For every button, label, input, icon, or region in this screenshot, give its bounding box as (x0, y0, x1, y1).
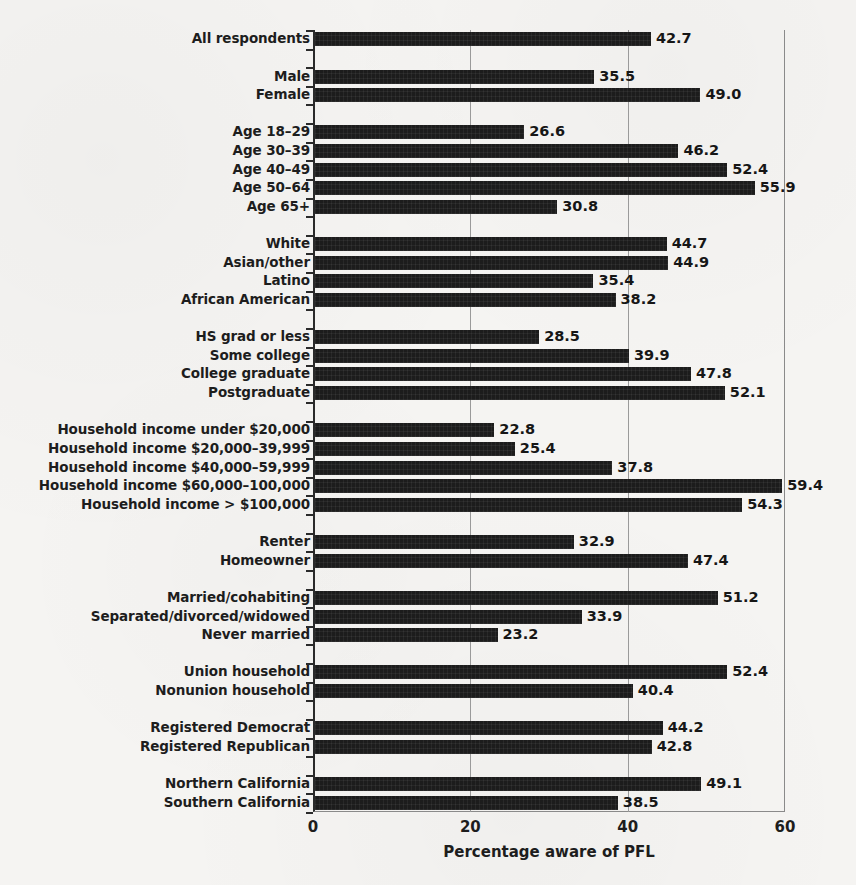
y-axis-tick (306, 700, 313, 702)
bar-value-label: 38.5 (623, 794, 659, 810)
x-tick-label-60: 60 (775, 818, 796, 836)
bar-value-label: 33.9 (587, 608, 623, 624)
bar (315, 293, 616, 307)
bar-value-label: 22.8 (499, 421, 535, 437)
bar (315, 665, 727, 679)
category-label: Postgraduate (208, 384, 310, 400)
category-label: White (266, 235, 310, 251)
bar (315, 88, 700, 102)
x-axis-title-text: Percentage aware of PFL (443, 843, 654, 861)
y-axis-tick (306, 570, 313, 572)
category-label: Registered Democrat (150, 719, 310, 735)
bar (315, 461, 612, 475)
bar (315, 163, 727, 177)
bar (315, 442, 515, 456)
category-label: Registered Republican (140, 738, 310, 754)
bar-value-label: 35.5 (599, 68, 635, 84)
figure-page: All respondents42.7Male35.5Female49.0Age… (0, 0, 856, 885)
bar (315, 423, 494, 437)
bar-value-label: 38.2 (621, 291, 657, 307)
bar-value-label: 51.2 (723, 589, 759, 605)
bar (315, 479, 782, 493)
category-label: Age 50–64 (233, 179, 310, 195)
bar (315, 684, 633, 698)
category-label: Union household (184, 663, 310, 679)
bar-value-label: 40.4 (638, 682, 674, 698)
bar-value-label: 37.8 (617, 459, 653, 475)
bar (315, 777, 701, 791)
category-label: All respondents (192, 30, 310, 46)
y-axis-tick (306, 402, 313, 404)
bar (315, 256, 668, 270)
bar-chart: All respondents42.7Male35.5Female49.0Age… (0, 0, 856, 885)
bar-value-label: 44.7 (672, 235, 708, 251)
bar-value-label: 44.2 (668, 719, 704, 735)
bar-value-label: 42.8 (657, 738, 693, 754)
bar (315, 740, 652, 754)
bar (315, 386, 725, 400)
y-axis-tick (306, 812, 313, 814)
bar-value-label: 47.8 (696, 365, 732, 381)
bar (315, 796, 618, 810)
bar-value-label: 55.9 (760, 179, 796, 195)
bar-value-label: 25.4 (520, 440, 556, 456)
bar-value-label: 32.9 (579, 533, 615, 549)
category-label: Age 30–39 (233, 142, 310, 158)
category-label: HS grad or less (195, 328, 310, 344)
bar-value-label: 30.8 (562, 198, 598, 214)
bar-value-label: 59.4 (787, 477, 823, 493)
bar-value-label: 46.2 (683, 142, 719, 158)
y-axis-tick (306, 104, 313, 106)
category-label: Some college (210, 347, 310, 363)
category-label: College graduate (181, 365, 310, 381)
category-label: Latino (263, 272, 310, 288)
category-label: Renter (259, 533, 310, 549)
bar (315, 610, 582, 624)
category-label: Homeowner (220, 552, 310, 568)
category-label: Age 65+ (247, 198, 310, 214)
bar-value-label: 39.9 (634, 347, 670, 363)
category-label: Household income > $100,000 (81, 496, 310, 512)
bar-value-label: 44.9 (673, 254, 709, 270)
bar (315, 144, 678, 158)
bar (315, 721, 663, 735)
y-axis-tick (306, 756, 313, 758)
y-axis-tick (306, 514, 313, 516)
bar-value-label: 23.2 (503, 626, 539, 642)
bar-value-label: 49.0 (705, 86, 741, 102)
bar-value-label: 28.5 (544, 328, 580, 344)
bar-value-label: 52.1 (730, 384, 766, 400)
category-label: Never married (202, 626, 310, 642)
bar-value-label: 26.6 (529, 123, 565, 139)
x-axis-title: Percentage aware of PFL (0, 843, 856, 861)
category-label: Female (256, 86, 310, 102)
y-axis-tick (306, 309, 313, 311)
bar (315, 181, 755, 195)
category-label: Married/cohabiting (167, 589, 310, 605)
bar (315, 628, 498, 642)
bar-value-label: 42.7 (656, 30, 692, 46)
y-axis-tick (306, 216, 313, 218)
bar (315, 70, 594, 84)
bar (315, 125, 524, 139)
bar-value-label: 47.4 (693, 552, 729, 568)
category-label: Household income $40,000–59,999 (48, 459, 310, 475)
bar (315, 274, 593, 288)
category-label: Household income under $20,000 (57, 421, 310, 437)
category-label: Southern California (164, 794, 310, 810)
bar (315, 535, 574, 549)
bar-value-label: 35.4 (598, 272, 634, 288)
category-label: Northern California (165, 775, 310, 791)
bar (315, 237, 667, 251)
category-label: Household income $20,000–39,999 (48, 440, 310, 456)
bar (315, 498, 742, 512)
bar (315, 200, 557, 214)
category-label: Household income $60,000–100,000 (39, 477, 310, 493)
y-axis-tick (306, 644, 313, 646)
category-label: Age 40–49 (233, 161, 310, 177)
x-tick-label-0: 0 (308, 818, 318, 836)
bar-value-label: 52.4 (732, 161, 768, 177)
category-label: Nonunion household (155, 682, 310, 698)
category-label: African American (181, 291, 310, 307)
category-label: Separated/divorced/widowed (91, 608, 310, 624)
